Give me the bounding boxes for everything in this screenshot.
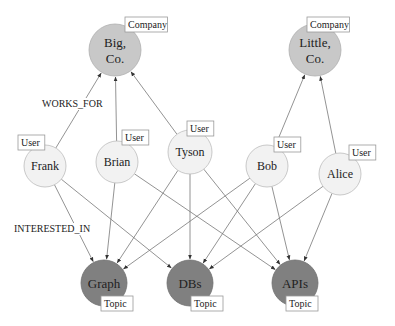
edge-works-for-alice-littleco xyxy=(320,77,336,154)
node-label: Big, xyxy=(104,35,126,50)
type-tag-user: User xyxy=(125,132,145,143)
type-tag-company: Company xyxy=(128,19,167,30)
edge-works-for-brian-bigco xyxy=(116,77,117,141)
edge-interested-in-bob-graph xyxy=(124,178,250,269)
node-alice[interactable]: AliceUser xyxy=(319,145,376,195)
node-label: Co. xyxy=(306,51,324,66)
type-tag-user: User xyxy=(190,123,210,134)
type-tag-user: User xyxy=(352,147,372,158)
edge-works-for-frank-bigco xyxy=(56,73,101,148)
node-label: Tyson xyxy=(175,145,204,159)
node-label: Bob xyxy=(257,159,277,173)
type-tag-topic: Topic xyxy=(194,298,217,309)
edge-interested-in-alice-apis xyxy=(304,193,332,260)
node-label: Graph xyxy=(88,276,121,291)
node-littleco[interactable]: Little,Co.Company xyxy=(289,17,349,76)
type-tag-user: User xyxy=(21,137,41,148)
node-label: Alice xyxy=(327,167,353,181)
edge-interested-in-bob-apis xyxy=(272,186,290,259)
type-tag-user: User xyxy=(277,139,297,150)
edge-works-for-bob-littleco xyxy=(275,75,305,147)
node-label: Frank xyxy=(31,159,59,173)
node-bigco[interactable]: Big,Co.Company xyxy=(89,17,167,76)
type-tag-topic: Topic xyxy=(289,298,312,309)
node-brian[interactable]: BrianUser xyxy=(96,130,149,183)
edge-label-works-for: WORKS_FOR xyxy=(42,98,103,109)
node-label: APIs xyxy=(282,276,308,291)
node-label: Little, xyxy=(299,35,330,50)
graph-diagram: WORKS_FORINTERESTED_IN Big,Co.CompanyLit… xyxy=(0,0,395,326)
nodes-layer: Big,Co.CompanyLittle,Co.CompanyFrankUser… xyxy=(18,17,376,311)
node-label: Co. xyxy=(106,51,124,66)
edge-label-interested-in: INTERESTED_IN xyxy=(14,223,90,234)
node-apis[interactable]: APIsTopic xyxy=(272,260,318,311)
node-label: Brian xyxy=(104,155,131,169)
node-tyson[interactable]: TysonUser xyxy=(168,121,214,174)
edge-works-for-tyson-bigco xyxy=(131,72,177,135)
node-label: DBs xyxy=(178,276,201,291)
type-tag-company: Company xyxy=(310,19,349,30)
type-tag-topic: Topic xyxy=(104,298,127,309)
node-bob[interactable]: BobUser xyxy=(246,137,301,187)
node-dbs[interactable]: DBsTopic xyxy=(167,260,223,311)
